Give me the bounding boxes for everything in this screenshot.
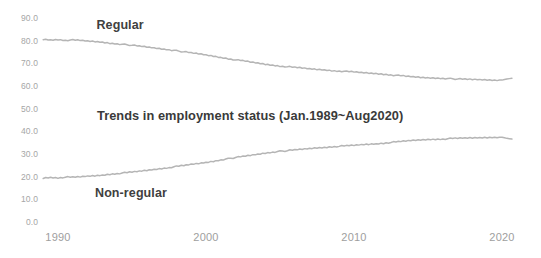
- chart-title: Trends in employment status (Jan.1989~Au…: [97, 108, 403, 123]
- y-axis-tick-label: 10.0: [4, 194, 38, 204]
- y-axis-tick-label: 20.0: [4, 172, 38, 182]
- series-line-regular: [43, 39, 512, 80]
- y-axis-tick-label: 40.0: [4, 126, 38, 136]
- y-axis-tick-label: 90.0: [4, 13, 38, 23]
- y-axis-tick-label: 30.0: [4, 149, 38, 159]
- y-axis-tick-label: 60.0: [4, 81, 38, 91]
- series-annotation-non-regular: Non-regular: [95, 186, 167, 200]
- y-axis-tick-label: 70.0: [4, 58, 38, 68]
- y-axis-tick-label: 50.0: [4, 104, 38, 114]
- x-axis-tick-label: 2020: [472, 231, 532, 243]
- plot-area: [0, 0, 541, 258]
- x-axis-tick-label: 2010: [324, 231, 384, 243]
- employment-status-line-chart: 90.080.070.060.050.040.030.020.010.00.0 …: [0, 0, 541, 258]
- y-axis-tick-label: 80.0: [4, 36, 38, 46]
- x-axis-tick-label: 2000: [176, 231, 236, 243]
- series-annotation-regular: Regular: [96, 18, 143, 32]
- x-axis-tick-label: 1990: [28, 231, 88, 243]
- y-axis-tick-label: 0.0: [4, 217, 38, 227]
- series-line-non-regular: [43, 137, 512, 178]
